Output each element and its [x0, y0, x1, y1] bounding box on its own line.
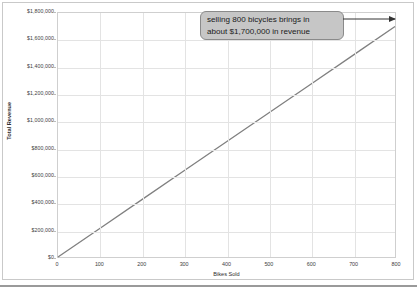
y-axis-tick-mark	[53, 149, 56, 150]
y-axis-tick-mark	[53, 94, 56, 95]
y-axis-tick-mark	[53, 258, 56, 259]
series-line-total-revenue	[58, 27, 395, 257]
gridline-horizontal	[58, 95, 395, 96]
x-axis-tick-label: 800	[381, 262, 411, 267]
x-axis-tick-label: 500	[254, 262, 284, 267]
y-axis-tick-label: $200,000	[4, 228, 54, 233]
x-axis-tick-label: 200	[127, 262, 157, 267]
gridline-vertical	[100, 13, 101, 257]
y-axis-tick-mark	[53, 67, 56, 68]
y-axis-tick-label: $1,600,000	[4, 36, 54, 41]
y-axis-tick-mark	[53, 203, 56, 204]
y-axis-tick-mark	[53, 121, 56, 122]
y-axis-title: Total Revenue	[7, 91, 13, 151]
y-axis-tick-mark	[53, 176, 56, 177]
callout-line-1: selling 800 bicycles brings in	[207, 14, 310, 25]
y-axis-tick-label: $0	[4, 255, 54, 260]
y-axis-tick-mark	[53, 12, 56, 13]
gridline-vertical	[312, 13, 313, 257]
callout-line-2: about $1,700,000 in revenue	[207, 26, 310, 37]
gridline-horizontal	[58, 177, 395, 178]
gridline-vertical	[143, 13, 144, 257]
x-axis-tick-label: 300	[169, 262, 199, 267]
y-axis-tick-mark	[53, 39, 56, 40]
gridline-horizontal	[58, 150, 395, 151]
plot-area	[57, 12, 396, 258]
gridline-horizontal	[58, 122, 395, 123]
gridline-vertical	[270, 13, 271, 257]
callout-arrow-icon	[343, 14, 405, 36]
revenue-line-chart-figure: $0$200,000$400,000$600,000$800,000$1,000…	[0, 0, 417, 295]
gridline-horizontal	[58, 40, 395, 41]
y-axis-tick-label: $600,000	[4, 173, 54, 178]
x-axis-title: Bikes Sold	[57, 272, 396, 278]
y-axis-tick-mark	[53, 231, 56, 232]
gridline-vertical	[228, 13, 229, 257]
x-axis-tick-label: 600	[296, 262, 326, 267]
gridline-vertical	[355, 13, 356, 257]
gridline-horizontal	[58, 68, 395, 69]
gridline-vertical	[185, 13, 186, 257]
revenue-callout-box: selling 800 bicycles brings in about $1,…	[200, 11, 344, 40]
y-axis-tick-label: $1,400,000	[4, 64, 54, 69]
x-axis-tick-label: 400	[212, 262, 242, 267]
x-axis-tick-label: 0	[42, 262, 72, 267]
x-axis-tick-label: 700	[339, 262, 369, 267]
gridline-horizontal	[58, 204, 395, 205]
series-layer	[58, 13, 395, 257]
gridline-horizontal	[58, 232, 395, 233]
x-axis-tick-label: 100	[84, 262, 114, 267]
bottom-rule-divider	[0, 285, 417, 287]
y-axis-tick-label: $400,000	[4, 200, 54, 205]
y-axis-tick-label: $1,800,000	[4, 9, 54, 14]
